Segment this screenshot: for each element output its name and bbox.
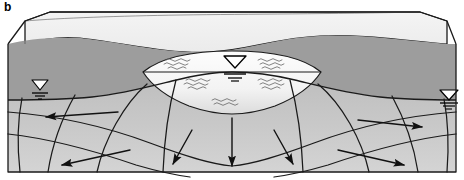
groundwater-block-diagram — [0, 0, 464, 180]
figure-root: b — [0, 0, 464, 180]
